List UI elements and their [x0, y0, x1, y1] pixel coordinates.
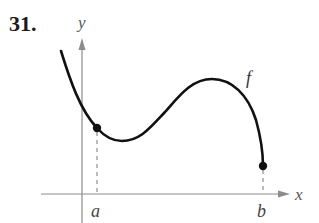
function-graph: y x f a b: [0, 0, 319, 223]
point-b-label: b: [257, 201, 266, 221]
y-axis-arrow-icon: [79, 38, 86, 50]
x-axis: [41, 191, 290, 198]
y-axis-label: y: [76, 13, 86, 32]
x-axis-label: x: [294, 185, 303, 204]
x-axis-arrow-icon: [278, 191, 290, 198]
point-a-marker: [93, 124, 101, 132]
function-curve: [61, 51, 263, 166]
y-axis: [79, 38, 86, 223]
function-label: f: [246, 68, 254, 88]
point-a-label: a: [91, 201, 100, 221]
point-b-marker: [259, 162, 267, 170]
